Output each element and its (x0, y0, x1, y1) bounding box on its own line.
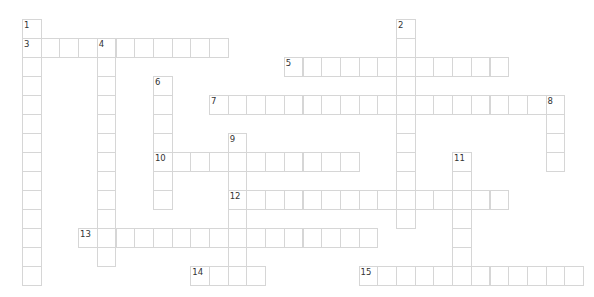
crossword-cell[interactable] (172, 152, 192, 172)
crossword-cell[interactable] (246, 152, 266, 172)
crossword-cell[interactable] (546, 266, 566, 286)
crossword-cell[interactable]: 11 (452, 152, 472, 172)
crossword-cell[interactable] (490, 266, 510, 286)
crossword-cell[interactable] (359, 190, 379, 210)
crossword-cell[interactable] (415, 190, 435, 210)
crossword-cell[interactable] (359, 228, 379, 248)
crossword-cell[interactable] (97, 57, 117, 77)
crossword-cell[interactable] (396, 190, 416, 210)
crossword-cell[interactable] (396, 95, 416, 115)
crossword-cell[interactable] (228, 152, 248, 172)
crossword-cell[interactable] (22, 247, 42, 267)
crossword-cell[interactable] (546, 133, 566, 153)
crossword-cell[interactable] (546, 114, 566, 134)
crossword-cell[interactable] (490, 95, 510, 115)
crossword-cell[interactable] (228, 171, 248, 191)
crossword-cell[interactable] (153, 171, 173, 191)
crossword-cell[interactable] (153, 114, 173, 134)
crossword-cell[interactable] (228, 266, 248, 286)
crossword-cell[interactable] (190, 152, 210, 172)
crossword-cell[interactable] (228, 228, 248, 248)
crossword-cell[interactable] (564, 266, 584, 286)
crossword-cell[interactable]: 7 (209, 95, 229, 115)
crossword-cell[interactable] (433, 266, 453, 286)
crossword-cell[interactable] (321, 57, 341, 77)
crossword-cell[interactable] (546, 152, 566, 172)
crossword-cell[interactable] (209, 266, 229, 286)
crossword-cell[interactable]: 4 (97, 38, 117, 58)
crossword-cell[interactable] (209, 38, 229, 58)
crossword-cell[interactable] (265, 95, 285, 115)
crossword-cell[interactable] (153, 190, 173, 210)
crossword-cell[interactable] (471, 266, 491, 286)
crossword-cell[interactable] (377, 266, 397, 286)
crossword-cell[interactable] (22, 209, 42, 229)
crossword-cell[interactable] (22, 133, 42, 153)
crossword-cell[interactable] (303, 57, 323, 77)
crossword-cell[interactable] (471, 190, 491, 210)
crossword-cell[interactable] (190, 228, 210, 248)
crossword-cell[interactable] (396, 114, 416, 134)
crossword-cell[interactable] (22, 152, 42, 172)
crossword-cell[interactable] (97, 95, 117, 115)
crossword-cell[interactable] (340, 228, 360, 248)
crossword-cell[interactable] (433, 190, 453, 210)
crossword-cell[interactable]: 5 (284, 57, 304, 77)
crossword-cell[interactable] (396, 76, 416, 96)
crossword-cell[interactable] (340, 190, 360, 210)
crossword-cell[interactable] (321, 228, 341, 248)
crossword-cell[interactable] (396, 57, 416, 77)
crossword-cell[interactable] (284, 95, 304, 115)
crossword-cell[interactable] (22, 190, 42, 210)
crossword-cell[interactable] (190, 38, 210, 58)
crossword-cell[interactable] (22, 95, 42, 115)
crossword-cell[interactable]: 6 (153, 76, 173, 96)
crossword-cell[interactable] (284, 228, 304, 248)
crossword-cell[interactable] (340, 57, 360, 77)
crossword-cell[interactable] (396, 152, 416, 172)
crossword-cell[interactable] (97, 209, 117, 229)
crossword-cell[interactable] (490, 190, 510, 210)
crossword-cell[interactable] (452, 171, 472, 191)
crossword-cell[interactable] (228, 95, 248, 115)
crossword-cell[interactable] (377, 190, 397, 210)
crossword-cell[interactable] (228, 247, 248, 267)
crossword-cell[interactable] (153, 133, 173, 153)
crossword-cell[interactable] (340, 152, 360, 172)
crossword-cell[interactable] (97, 133, 117, 153)
crossword-cell[interactable] (97, 114, 117, 134)
crossword-cell[interactable] (396, 209, 416, 229)
crossword-cell[interactable] (433, 95, 453, 115)
crossword-cell[interactable] (97, 228, 117, 248)
crossword-cell[interactable]: 9 (228, 133, 248, 153)
crossword-cell[interactable] (321, 95, 341, 115)
crossword-cell[interactable] (377, 95, 397, 115)
crossword-cell[interactable] (321, 190, 341, 210)
crossword-cell[interactable] (97, 247, 117, 267)
crossword-cell[interactable] (22, 76, 42, 96)
crossword-cell[interactable] (265, 190, 285, 210)
crossword-cell[interactable] (97, 190, 117, 210)
crossword-cell[interactable] (116, 38, 136, 58)
crossword-cell[interactable] (172, 228, 192, 248)
crossword-cell[interactable] (508, 95, 528, 115)
crossword-cell[interactable] (78, 38, 98, 58)
crossword-cell[interactable] (59, 38, 79, 58)
crossword-cell[interactable]: 12 (228, 190, 248, 210)
crossword-cell[interactable] (22, 114, 42, 134)
crossword-cell[interactable] (303, 190, 323, 210)
crossword-cell[interactable] (508, 266, 528, 286)
crossword-cell[interactable] (209, 228, 229, 248)
crossword-cell[interactable] (527, 95, 547, 115)
crossword-cell[interactable] (396, 266, 416, 286)
crossword-cell[interactable] (265, 152, 285, 172)
crossword-cell[interactable]: 10 (153, 152, 173, 172)
crossword-cell[interactable]: 3 (22, 38, 42, 58)
crossword-cell[interactable] (396, 38, 416, 58)
crossword-cell[interactable] (321, 152, 341, 172)
crossword-cell[interactable] (527, 266, 547, 286)
crossword-cell[interactable] (134, 228, 154, 248)
crossword-cell[interactable] (490, 57, 510, 77)
crossword-cell[interactable] (284, 190, 304, 210)
crossword-cell[interactable]: 2 (396, 19, 416, 39)
